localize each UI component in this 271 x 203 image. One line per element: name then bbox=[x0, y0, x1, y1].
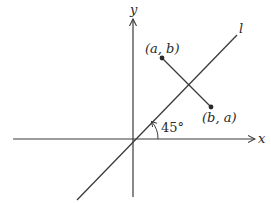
reflection-segment bbox=[162, 58, 211, 107]
y-axis-label: y bbox=[129, 2, 138, 17]
point-b-a-label: (b, a) bbox=[202, 110, 236, 125]
angle-arc bbox=[152, 122, 159, 140]
angle-label: 45° bbox=[161, 120, 184, 135]
point-b-a-dot bbox=[209, 105, 214, 110]
line-l-label: l bbox=[239, 21, 243, 36]
point-a-b-dot bbox=[160, 56, 165, 61]
x-axis-label: x bbox=[258, 131, 266, 146]
reflection-diagram: y x l (a, b) (b, a) 45° bbox=[0, 0, 271, 203]
point-a-b-label: (a, b) bbox=[145, 41, 179, 56]
